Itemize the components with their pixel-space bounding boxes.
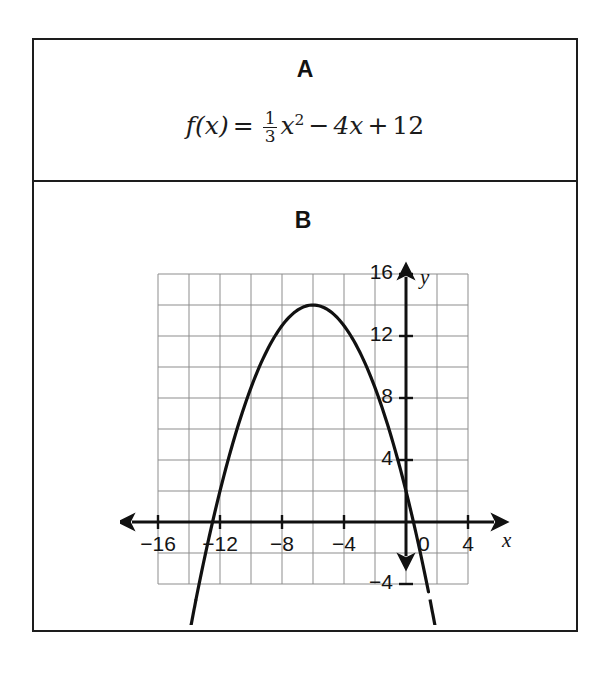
x-tick-label-neg16: −16 bbox=[140, 532, 176, 556]
function-formula: f(x)=13x2−4x+12 bbox=[0, 110, 610, 145]
x-tick-label-neg4: −4 bbox=[332, 532, 356, 556]
formula-linear-term: 4x bbox=[333, 111, 363, 140]
x-tick-label-4: 4 bbox=[462, 532, 474, 556]
fraction-denominator: 3 bbox=[263, 127, 278, 145]
formula-plus: + bbox=[363, 111, 392, 140]
formula-lhs: f(x) bbox=[186, 111, 229, 140]
parabola-left-arrow bbox=[187, 600, 196, 625]
x-tick-label-neg12: −12 bbox=[202, 532, 238, 556]
section-divider bbox=[32, 180, 578, 182]
formula-x-term: x bbox=[280, 111, 294, 140]
x-tick-label-neg8: −8 bbox=[270, 532, 294, 556]
formula-minus: − bbox=[304, 111, 333, 140]
y-tick-label-4: 4 bbox=[381, 446, 393, 470]
panel-a-label: A bbox=[0, 56, 610, 83]
y-tick-label-16: 16 bbox=[370, 260, 393, 284]
formula-equals: = bbox=[229, 111, 258, 140]
fraction-numerator: 1 bbox=[263, 110, 278, 127]
y-tick-label-neg4: −4 bbox=[369, 570, 393, 594]
y-tick-label-12: 12 bbox=[370, 322, 393, 346]
x-axis-label: x bbox=[502, 528, 511, 553]
worksheet-page: A f(x)=13x2−4x+12 B −16−12−8−404161284−4… bbox=[0, 0, 610, 675]
graph-svg bbox=[120, 225, 520, 625]
formula-constant: 12 bbox=[392, 111, 424, 140]
x-tick-label-0: 0 bbox=[418, 532, 430, 556]
parabola-right-arrow bbox=[430, 600, 439, 625]
formula-exponent: 2 bbox=[295, 111, 305, 129]
coordinate-graph: −16−12−8−404161284−4 x y bbox=[120, 225, 520, 625]
y-tick-label-8: 8 bbox=[381, 384, 393, 408]
formula-fraction: 13 bbox=[263, 110, 278, 145]
y-axis-label: y bbox=[420, 265, 429, 290]
